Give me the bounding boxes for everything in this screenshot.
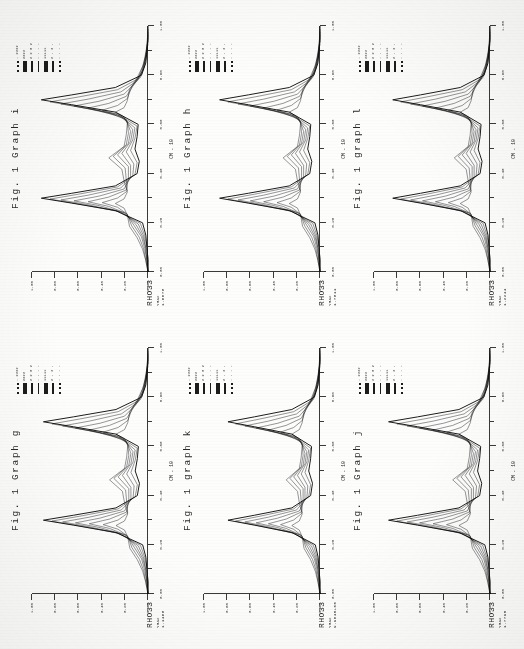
rho-label-block: RHO33YMAX1.6078	[145, 279, 165, 306]
legend-item: 11111	[214, 10, 221, 72]
legend-item-label: - - - -	[208, 43, 213, 59]
y-axis-tick-label: 1.00	[202, 281, 206, 291]
x-axis-tick-label: 1.00	[501, 21, 505, 31]
legend-item-label: 11111	[215, 369, 220, 381]
legend-item-label: 11111	[43, 47, 48, 59]
y-axis-tick-label: 0.20	[295, 281, 299, 291]
x-axis-tick	[148, 544, 154, 545]
x-axis-tick	[148, 148, 152, 149]
rotated-figure-wrapper: Fig. 1 Graph j0.000.200.400.600.801.000.…	[352, 330, 517, 630]
y-axis-tick	[31, 272, 32, 278]
y-axis-tick	[77, 272, 78, 278]
legend-item-label: - - - -	[229, 365, 234, 381]
legend-swatch-icon	[359, 383, 361, 394]
y-axis-tick	[203, 272, 204, 278]
legend-item-label: - - - -	[36, 43, 41, 59]
x-axis-tick	[490, 396, 496, 397]
y-axis-tick-label: 0.40	[442, 281, 446, 291]
legend: . 222222222 2 8 2- - - -111112 . 2 .- - …	[186, 332, 235, 394]
rho-name: RHO33	[487, 601, 496, 628]
x-axis-tick	[148, 568, 152, 569]
x-axis-tick-label: 0.60	[331, 441, 335, 451]
legend-item: 2 2 8 2	[28, 332, 35, 394]
legend-swatch-icon	[380, 383, 382, 394]
ymax-value: 1.1468	[160, 601, 165, 628]
x-axis-tick	[320, 197, 324, 198]
legend-swatch-icon	[31, 61, 33, 72]
legend-swatch-icon	[44, 61, 48, 72]
legend-item-label: 2222	[194, 50, 199, 59]
x-axis-tick-label: 0.40	[331, 169, 335, 179]
legend-item-label: . 2222	[187, 45, 192, 59]
legend-swatch-icon	[31, 383, 33, 394]
y-axis-tick-label: 0.80	[225, 281, 229, 291]
y-axis-tick	[443, 594, 444, 600]
x-axis-tick	[320, 25, 326, 26]
legend-swatch-icon	[231, 383, 233, 394]
x-axis-tick	[490, 519, 494, 520]
rotated-figure-wrapper: Fig. 1 Graph g0.000.200.400.600.801.000.…	[10, 330, 175, 630]
y-axis-tick-label: 1.00	[30, 603, 34, 613]
y-axis-tick	[373, 594, 374, 600]
ymax-value: 1.7795	[502, 601, 507, 628]
rho-name: RHO33	[317, 279, 326, 306]
legend-item: 2222	[21, 332, 28, 394]
y-axis-tick-label: 0.20	[123, 603, 127, 613]
legend-item-label: 2222	[194, 372, 199, 381]
y-axis-tick	[396, 594, 397, 600]
x-axis-caption: CM . 10	[169, 139, 174, 158]
y-axis-tick-label: 0.80	[395, 281, 399, 291]
legend-item: . 2222	[356, 332, 363, 394]
x-axis-tick-label: 0.60	[159, 441, 163, 451]
legend-item: - - - -	[228, 332, 235, 394]
y-axis-tick	[101, 594, 102, 600]
y-axis-tick-label: 0.60	[76, 281, 80, 291]
x-axis-tick	[490, 593, 496, 594]
legend-item: - - - -	[207, 332, 214, 394]
y-axis-tick	[54, 594, 55, 600]
x-axis-tick-label: 1.00	[159, 21, 163, 31]
x-axis-tick	[148, 396, 154, 397]
legend-item-label: 2 2 8 2	[201, 365, 206, 381]
legend-item-label: . 2222	[187, 367, 192, 381]
legend-swatch-icon	[23, 383, 27, 394]
x-axis-tick	[320, 568, 324, 569]
x-axis-tick	[148, 246, 152, 247]
legend-item-label: - - - -	[378, 365, 383, 381]
y-axis-tick	[124, 594, 125, 600]
legend-swatch-icon	[23, 61, 27, 72]
x-axis-tick-label: 0.00	[159, 589, 163, 599]
x-axis-tick-label: 0.80	[501, 70, 505, 80]
legend-item-label: 2222	[364, 50, 369, 59]
y-axis-tick	[466, 594, 467, 600]
y-axis-tick	[396, 272, 397, 278]
series-line	[63, 354, 148, 594]
x-axis-tick	[320, 74, 326, 75]
y-axis-tick	[31, 594, 32, 600]
y-axis-tick-label: 0.80	[53, 603, 57, 613]
legend-item: - - - -	[398, 332, 405, 394]
x-axis-tick-label: 0.40	[159, 169, 163, 179]
rho-name: RHO33	[145, 279, 154, 306]
legend-swatch-icon	[386, 61, 390, 72]
x-axis-caption: CM . 10	[169, 461, 174, 480]
x-axis-tick	[490, 445, 496, 446]
rho-name: RHO33	[317, 601, 326, 628]
x-axis-tick	[490, 470, 494, 471]
y-axis-tick	[77, 594, 78, 600]
legend-item-label: 2 2 8 2	[371, 365, 376, 381]
x-axis-tick	[490, 347, 496, 348]
x-axis-tick	[490, 372, 494, 373]
y-axis-tick	[489, 272, 490, 278]
y-axis-tick-label: 0.20	[295, 603, 299, 613]
x-axis-tick-label: 0.80	[331, 392, 335, 402]
y-axis-tick	[203, 594, 204, 600]
legend-item-label: 2 . 2 .	[222, 365, 227, 381]
x-axis-tick	[490, 421, 494, 422]
x-axis-tick	[320, 50, 324, 51]
legend-item-label: 11111	[215, 47, 220, 59]
rho-label-block: RHO33YMAX9.9045+00	[317, 601, 337, 628]
x-axis-tick	[490, 246, 494, 247]
legend-item-label: 2222	[22, 372, 27, 381]
x-axis-tick	[320, 445, 326, 446]
